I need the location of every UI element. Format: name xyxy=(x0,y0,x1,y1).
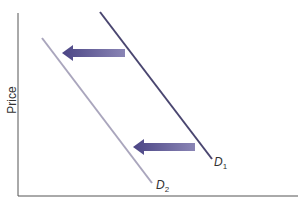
demand-shift-diagram xyxy=(0,0,305,204)
curve-label-d2: D2 xyxy=(156,178,169,194)
shift-arrow-lower xyxy=(133,139,195,155)
y-axis-label: Price xyxy=(5,80,19,120)
shift-arrow-upper xyxy=(62,45,125,61)
curve-label-d1: D1 xyxy=(214,155,227,171)
